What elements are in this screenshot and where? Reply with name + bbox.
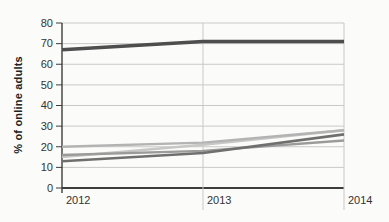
- y-tick-label: 10: [41, 161, 53, 173]
- y-tick-label: 80: [41, 17, 53, 29]
- y-tick-label: 70: [41, 37, 53, 49]
- y-tick-label: 20: [41, 141, 53, 153]
- y-tick-label: 30: [41, 120, 53, 132]
- x-tick-label: 2014: [348, 194, 372, 206]
- y-axis-title: % of online adults: [12, 56, 24, 154]
- line-chart: 01020304050607080201220132014 % of onlin…: [0, 0, 389, 222]
- y-tick-label: 50: [41, 79, 53, 91]
- line-chart-panel: 01020304050607080201220132014 % of onlin…: [0, 0, 389, 222]
- y-tick-label: 60: [41, 58, 53, 70]
- grid-layer: [56, 23, 344, 210]
- x-tick-label: 2013: [207, 194, 231, 206]
- x-tick-label: 2012: [66, 194, 90, 206]
- axis-labels-layer: 01020304050607080201220132014: [41, 17, 373, 206]
- y-tick-label: 0: [47, 182, 53, 194]
- y-tick-label: 40: [41, 99, 53, 111]
